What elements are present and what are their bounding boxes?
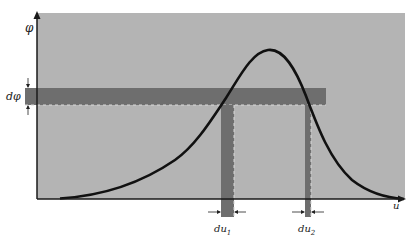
dphi-bottom-arrow-icon: [26, 105, 30, 109]
du1-left-arrow-icon: [217, 210, 221, 214]
du2-left-arrow-icon: [301, 210, 305, 214]
du2-right-arrow-icon: [311, 210, 315, 214]
du2-subscript: 2: [310, 229, 316, 237]
du1-subscript: 1: [227, 229, 231, 237]
dphi-label: dφ: [6, 90, 21, 103]
du2-label: du2: [298, 223, 316, 237]
du1-strip: [221, 105, 234, 217]
dphi-top-arrow-icon: [26, 84, 30, 88]
y-axis-label: φ: [25, 21, 34, 35]
diagram-figure: φ u dφ du1 du2: [0, 0, 416, 242]
du1-right-arrow-icon: [234, 210, 238, 214]
x-axis-label: u: [393, 200, 399, 211]
dphi-band: [25, 88, 326, 105]
du1-label: du1: [214, 223, 231, 237]
du2-strip: [305, 105, 311, 217]
